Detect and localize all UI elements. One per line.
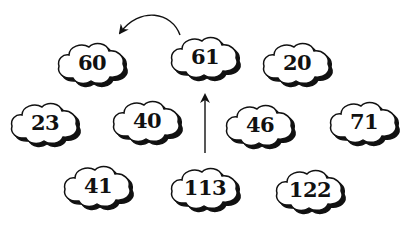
cloud-60: 60 [55,39,129,87]
cloud-number: 46 [223,101,297,147]
cloud-number: 20 [260,39,334,85]
cloud-number: 113 [168,164,242,210]
cloud-113: 113 [168,164,242,212]
cloud-61: 61 [168,33,242,81]
cloud-number: 41 [61,162,135,208]
cloud-23: 23 [8,99,82,147]
cloud-number: 23 [8,99,82,145]
number-cloud-diagram: 60 61 20 23 40 46 71 41 113 122 [0,0,411,229]
cloud-number: 40 [110,97,184,143]
cloud-46: 46 [223,101,297,149]
cloud-40: 40 [110,97,184,145]
cloud-122: 122 [273,166,347,214]
cloud-41: 41 [61,162,135,210]
cloud-number: 60 [55,39,129,85]
cloud-20: 20 [260,39,334,87]
cloud-number: 61 [168,33,242,79]
cloud-number: 122 [273,166,347,212]
cloud-71: 71 [327,98,401,146]
cloud-number: 71 [327,98,401,144]
